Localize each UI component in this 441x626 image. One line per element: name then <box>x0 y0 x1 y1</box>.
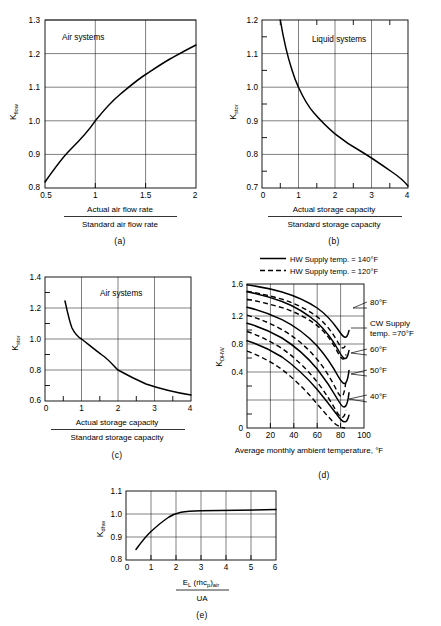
svg-text:1: 1 <box>149 563 154 572</box>
panel-b-gridlines <box>262 20 408 188</box>
panel-b-curve <box>280 20 408 186</box>
panel-b-annotation: Liquid systems <box>312 35 366 44</box>
svg-text:1.2: 1.2 <box>247 16 259 25</box>
panel-c-annotation: Air systems <box>100 289 142 298</box>
panel-a-annotation: Air systems <box>62 33 104 42</box>
svg-text:0: 0 <box>44 404 49 413</box>
svg-text:0: 0 <box>238 424 243 433</box>
curve-label-80f: 80°F <box>370 298 387 307</box>
panel-e-caption: (e) <box>196 610 208 620</box>
svg-text:1.0: 1.0 <box>247 83 259 92</box>
panel-b: 1.2 1.1 1.0 0.9 0.8 0.7 0 1 2 3 4 Kstor … <box>222 0 441 248</box>
svg-text:4: 4 <box>188 404 193 413</box>
curve-label-cw-supply: CW Supply <box>370 319 410 328</box>
svg-text:1: 1 <box>296 191 301 200</box>
legend-item-solid-label: HW Supply temp. = 140°F <box>290 255 378 264</box>
svg-text:4: 4 <box>405 191 410 200</box>
panel-d-y-ticks: 1.6 1.2 0.8 0.4 0 <box>232 280 252 433</box>
svg-text:20: 20 <box>266 431 276 440</box>
svg-text:2: 2 <box>116 404 121 413</box>
panel-b-y-axis-label: Kstor <box>228 104 239 119</box>
panel-a-caption: (a) <box>114 236 126 246</box>
svg-text:60: 60 <box>313 431 323 440</box>
panel-a-x-label-numerator: Actual air flow rate <box>87 205 153 214</box>
panel-d-caption: (d) <box>318 470 330 480</box>
svg-text:0.6: 0.6 <box>30 396 42 405</box>
panel-e-x-ticks: 0 1 2 3 4 5 6 <box>125 555 278 572</box>
svg-text:0.8: 0.8 <box>232 340 244 349</box>
svg-text:1.2: 1.2 <box>232 312 244 321</box>
svg-text:2: 2 <box>333 191 338 200</box>
svg-text:1.0: 1.0 <box>111 510 123 519</box>
svg-text:2: 2 <box>174 563 179 572</box>
svg-text:1.4: 1.4 <box>30 273 42 282</box>
panel-e-gridlines <box>126 491 276 560</box>
panel-a-gridlines <box>45 20 196 188</box>
panel-a: 1.3 1.2 1.1 1.0 0.9 0.8 0.5 1 1.5 2 Kflo… <box>0 0 215 248</box>
svg-text:2: 2 <box>193 191 198 200</box>
svg-text:0: 0 <box>125 563 130 572</box>
panel-a-y-axis-label: Kflow <box>8 103 19 120</box>
panel-a-x-label-denominator: Standard air flow rate <box>82 220 159 229</box>
svg-text:0.8: 0.8 <box>29 183 41 192</box>
svg-text:0.7: 0.7 <box>247 183 259 192</box>
svg-text:1.3: 1.3 <box>29 16 41 25</box>
svg-text:0.8: 0.8 <box>30 366 42 375</box>
svg-text:1: 1 <box>79 404 84 413</box>
legend-item-dashed-label: HW Supply temp. = 120°F <box>290 267 378 276</box>
panel-e-x-label-denominator: UA <box>196 594 208 603</box>
panel-a-y-ticks: 1.3 1.2 1.1 1.0 0.9 0.8 <box>29 16 41 192</box>
panel-d-y-axis-label: KDHW <box>214 347 225 367</box>
panel-a-x-ticks: 0.5 1 1.5 2 <box>40 183 197 200</box>
panel-d-x-axis-label: Average monthly ambient temperature, °F <box>235 446 384 455</box>
panel-e: 1.1 1.0 0.9 0.8 0 1 2 3 4 5 6 Kdhw EL (ṁ… <box>90 484 300 626</box>
panel-d: HW Supply temp. = 140°F HW Supply temp. … <box>212 252 441 484</box>
svg-text:3: 3 <box>199 563 204 572</box>
svg-text:0.9: 0.9 <box>111 533 123 542</box>
panel-e-y-axis-label: Kdhw <box>95 520 106 537</box>
svg-text:0.4: 0.4 <box>232 368 244 377</box>
panel-b-x-label-denominator: Standard storage capacity <box>288 220 381 229</box>
panel-e-curve <box>136 510 276 550</box>
svg-text:1.0: 1.0 <box>30 335 42 344</box>
svg-text:80: 80 <box>336 431 346 440</box>
svg-text:1.1: 1.1 <box>29 83 41 92</box>
panel-d-curves <box>247 285 349 428</box>
svg-text:1.0: 1.0 <box>29 117 41 126</box>
panel-c-x-label-numerator: Actual storage capacity <box>76 418 159 427</box>
svg-text:40: 40 <box>289 431 299 440</box>
svg-text:0.9: 0.9 <box>29 150 41 159</box>
svg-text:0: 0 <box>246 431 251 440</box>
svg-text:6: 6 <box>273 563 278 572</box>
panel-b-caption: (b) <box>328 236 340 246</box>
svg-text:1.1: 1.1 <box>111 487 123 496</box>
svg-text:1: 1 <box>93 191 98 200</box>
svg-text:1.1: 1.1 <box>247 50 259 59</box>
panel-d-chart: HW Supply temp. = 140°F HW Supply temp. … <box>212 252 441 484</box>
svg-text:1.2: 1.2 <box>29 50 41 59</box>
panel-e-y-ticks: 1.1 1.0 0.9 0.8 <box>111 487 123 564</box>
panel-b-y-ticks: 1.2 1.1 1.0 0.9 0.8 0.7 <box>247 16 267 192</box>
svg-text:0.8: 0.8 <box>247 150 259 159</box>
svg-text:1.2: 1.2 <box>30 304 42 313</box>
svg-text:3: 3 <box>369 191 374 200</box>
panel-b-x-label-numerator: Actual storage capacity <box>293 205 376 214</box>
svg-text:0.9: 0.9 <box>247 117 259 126</box>
panel-c-caption: (c) <box>111 450 122 460</box>
svg-text:3: 3 <box>152 404 157 413</box>
svg-text:5: 5 <box>249 563 254 572</box>
curve-label-40f: 40°F <box>370 392 387 401</box>
curve-label-cw-supply-temp: temp. =70°F <box>370 329 414 338</box>
svg-text:1.6: 1.6 <box>232 280 244 289</box>
svg-text:0.5: 0.5 <box>40 191 52 200</box>
panel-c-curve <box>65 301 191 395</box>
svg-text:0: 0 <box>261 191 266 200</box>
panel-a-chart: 1.3 1.2 1.1 1.0 0.9 0.8 0.5 1 1.5 2 Kflo… <box>0 0 215 248</box>
panel-d-x-ticks: 0 20 40 60 80 100 <box>246 423 372 440</box>
panel-d-legend: HW Supply temp. = 140°F HW Supply temp. … <box>260 255 378 276</box>
panel-e-x-label-numerator: EL (ṁcp)air <box>183 578 220 588</box>
svg-text:1.5: 1.5 <box>140 191 152 200</box>
curve-label-50f: 50°F <box>370 366 387 375</box>
panel-b-chart: 1.2 1.1 1.0 0.9 0.8 0.7 0 1 2 3 4 Kstor … <box>222 0 441 248</box>
panel-c-chart: 1.4 1.2 1.0 0.8 0.6 0 1 2 3 4 Kstor Air … <box>0 258 215 483</box>
